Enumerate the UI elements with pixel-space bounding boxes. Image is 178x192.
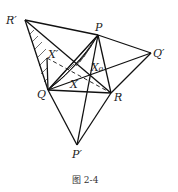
label-Q: Q: [37, 88, 46, 101]
segment-Q-R: [48, 90, 111, 93]
label-X: X: [69, 78, 79, 91]
label-X-prime: X′: [47, 48, 59, 61]
segment-Q-Pp: [48, 90, 77, 145]
label-Q-prime: Q′: [153, 47, 165, 60]
point-labels: R′ P Q′ Q R P′ X′ X X₀: [5, 14, 165, 161]
label-X0: X₀: [90, 61, 104, 74]
label-R-prime: R′: [5, 14, 17, 27]
label-R: R: [113, 91, 122, 104]
label-P: P: [94, 21, 103, 34]
segment-Qp-R: [111, 53, 151, 93]
segment-Xp-Q: [47, 58, 48, 90]
figure-caption: 图 2-4: [72, 175, 99, 185]
geometry-figure: R′ P Q′ Q R P′ X′ X X₀ 图 2-4: [0, 0, 178, 192]
segment-P-Qp: [98, 35, 151, 53]
label-P-prime: P′: [71, 148, 82, 161]
segment-Rp-P: [25, 20, 98, 35]
